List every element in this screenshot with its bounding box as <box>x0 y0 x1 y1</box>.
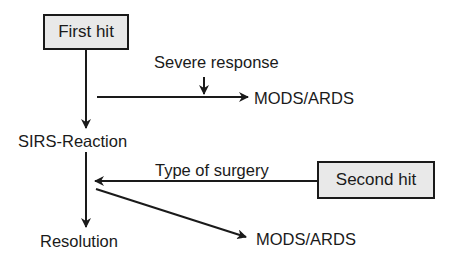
second-hit-box: Second hit <box>317 161 435 199</box>
first-hit-label: First hit <box>58 22 114 42</box>
arrow-to-mods-bottom <box>96 189 246 237</box>
severe-response-label: Severe response <box>154 54 279 71</box>
second-hit-label: Second hit <box>336 170 416 190</box>
mods-ards-top-label: MODS/ARDS <box>254 90 354 107</box>
resolution-label: Resolution <box>40 233 118 250</box>
first-hit-box: First hit <box>43 14 129 50</box>
mods-ards-bottom-label: MODS/ARDS <box>256 231 356 248</box>
type-of-surgery-label: Type of surgery <box>155 162 269 179</box>
sirs-reaction-label: SIRS-Reaction <box>18 133 127 150</box>
